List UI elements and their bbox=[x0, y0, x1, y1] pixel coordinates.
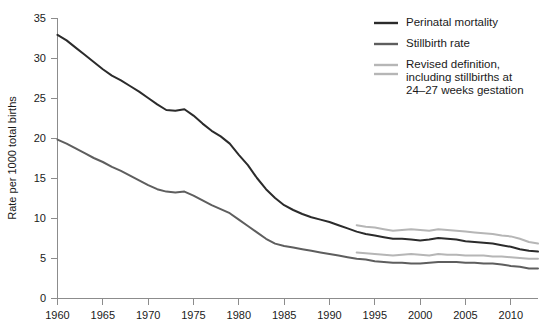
x-tick-label: 1995 bbox=[363, 309, 387, 321]
legend-label-0: Perinatal mortality bbox=[406, 16, 498, 28]
x-tick-label: 2000 bbox=[408, 309, 432, 321]
legend-label-2: 24–27 weeks gestation bbox=[406, 84, 524, 96]
x-axis: 1960196519701975198019851990199520002005… bbox=[45, 299, 538, 322]
y-tick-label: 15 bbox=[34, 172, 46, 184]
y-tick-group: 05101520253035 bbox=[34, 12, 58, 304]
x-tick-label: 1960 bbox=[45, 309, 69, 321]
x-tick-label: 2005 bbox=[453, 309, 477, 321]
series-line-3 bbox=[357, 252, 538, 258]
x-tick-label: 1965 bbox=[91, 309, 115, 321]
x-tick-label: 1980 bbox=[227, 309, 251, 321]
y-tick-label: 5 bbox=[40, 252, 46, 264]
chart-legend: Perinatal mortalityStillbirth rateRevise… bbox=[374, 16, 524, 96]
line-chart: 05101520253035 Rate per 1000 total birth… bbox=[0, 0, 543, 335]
y-tick-label: 35 bbox=[34, 12, 46, 24]
series-line-2 bbox=[357, 225, 538, 243]
y-tick-label: 30 bbox=[34, 52, 46, 64]
x-tick-label: 1970 bbox=[136, 309, 160, 321]
legend-label-2: including stillbirths at bbox=[406, 71, 513, 83]
y-axis: 05101520253035 Rate per 1000 total birth… bbox=[6, 12, 58, 304]
x-tick-label: 1985 bbox=[272, 309, 296, 321]
x-tick-label: 2010 bbox=[499, 309, 523, 321]
y-tick-label: 10 bbox=[34, 212, 46, 224]
y-axis-title: Rate per 1000 total births bbox=[6, 96, 18, 220]
y-tick-label: 0 bbox=[40, 292, 46, 304]
legend-label-1: Stillbirth rate bbox=[406, 37, 470, 49]
x-tick-group: 1960196519701975198019851990199520002005… bbox=[45, 299, 523, 322]
y-tick-label: 20 bbox=[34, 132, 46, 144]
x-tick-label: 1990 bbox=[317, 309, 341, 321]
series-line-1 bbox=[58, 140, 539, 269]
legend-label-2: Revised definition, bbox=[406, 58, 500, 70]
chart-figure: 05101520253035 Rate per 1000 total birth… bbox=[0, 0, 543, 335]
x-tick-label: 1975 bbox=[181, 309, 205, 321]
y-tick-label: 25 bbox=[34, 92, 46, 104]
